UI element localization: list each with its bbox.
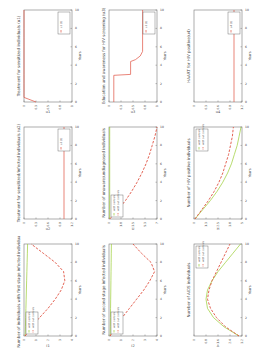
- y-tick-label: 0.3: [34, 222, 38, 227]
- chart-svg: Number of HIV positive individuals024681…: [172, 119, 254, 233]
- legend-label: with controls: [113, 311, 116, 328]
- chart-title: Treatment for sensitized/infected indivi…: [16, 123, 21, 223]
- y-tick-label: 1.2: [70, 222, 74, 227]
- x-axis-label: Years: [163, 285, 167, 294]
- y-axis-label: u1: [46, 110, 50, 114]
- chart-panel: Number of AIDS individuals0246810Years00…: [172, 236, 256, 352]
- x-tick-label: 2: [75, 199, 77, 203]
- y-axis-label: u2: [46, 227, 50, 231]
- x-axis-label: Years: [248, 168, 252, 177]
- x-tick-label: 10: [160, 125, 164, 129]
- y-tick-label: 1: [119, 339, 123, 341]
- x-tick-label: 0: [75, 334, 77, 338]
- x-tick-label: 6: [160, 45, 162, 49]
- x-tick-label: 0: [75, 217, 77, 221]
- x-axis-label: Years: [163, 51, 167, 60]
- x-tick-label: 0: [75, 100, 77, 104]
- x-tick-label: 0: [160, 217, 162, 221]
- y-tick-label: 0: [22, 339, 26, 341]
- x-tick-label: 8: [245, 26, 247, 30]
- y-tick-label: 5.3: [143, 222, 147, 227]
- y-tick-label: 0.8: [143, 105, 147, 110]
- y-tick-label: 0: [192, 105, 196, 107]
- x-tick-label: 4: [160, 180, 162, 184]
- y-tick-label: 4: [155, 339, 159, 341]
- chart-title: Treatment for sensitized individuals (u1…: [16, 15, 21, 97]
- chart-panel: Number of HIV positive individuals024681…: [172, 119, 256, 236]
- x-tick-label: 2: [75, 82, 77, 86]
- y-tick-label: 3: [58, 339, 62, 341]
- chart-title: Number of HIV positive individuals: [186, 138, 191, 207]
- y-tick-label: 2.4: [228, 339, 232, 344]
- x-tick-label: 2: [160, 82, 162, 86]
- x-tick-label: 8: [75, 260, 77, 264]
- x-tick-label: 8: [160, 143, 162, 147]
- x-tick-label: 10: [75, 125, 79, 129]
- y-tick-label: 0: [192, 339, 196, 341]
- x-tick-label: 4: [75, 180, 77, 184]
- x-tick-label: 4: [75, 63, 77, 67]
- x-tick-label: 4: [245, 63, 247, 67]
- y-tick-label: 2: [131, 339, 135, 341]
- x-tick-label: 6: [245, 279, 247, 283]
- y-tick-label: 2: [46, 339, 50, 341]
- chart-panel: Number of second stage infected individu…: [87, 236, 172, 352]
- y-axis-label: U: [132, 227, 135, 231]
- chart-title: Education and awareness for HIV screenin…: [101, 7, 106, 104]
- y-tick-label: 0.9: [228, 105, 232, 110]
- legend: u1 (t): [58, 12, 70, 34]
- chart-svg: Number of individuals with first stage i…: [2, 236, 84, 350]
- legend-label: with controls: [113, 194, 116, 211]
- x-tick-label: 10: [245, 8, 249, 12]
- chart-panel: Number of individuals with first stage i…: [2, 236, 87, 352]
- x-tick-label: 10: [160, 8, 164, 12]
- y-tick-label: 0.3: [34, 105, 38, 110]
- chart-svg: Treatment for sensitized/infected indivi…: [2, 119, 84, 233]
- figure-grid: Treatment for sensitized individuals (u1…: [0, 0, 256, 352]
- y-axis-label: u4: [216, 110, 221, 114]
- x-tick-label: 6: [75, 279, 77, 283]
- legend-label: with out controls: [202, 123, 205, 145]
- x-tick-label: 2: [160, 199, 162, 203]
- x-axis-label: Years: [163, 168, 167, 177]
- y-tick-label: 0.3: [204, 105, 208, 110]
- chart-svg: Number of AIDS individuals0246810Years00…: [172, 236, 254, 350]
- x-tick-label: 2: [245, 82, 247, 86]
- x-tick-label: 10: [75, 8, 79, 12]
- y-tick-label: 0: [192, 222, 196, 224]
- y-tick-label: 0.9: [58, 222, 62, 227]
- legend-label: u4 (t): [230, 21, 233, 28]
- x-tick-label: 4: [245, 180, 247, 184]
- legend-label: with controls: [198, 128, 201, 145]
- x-tick-label: 6: [75, 45, 77, 49]
- y-axis-label: I2: [131, 344, 134, 348]
- x-tick-label: 0: [245, 334, 247, 338]
- x-tick-label: 2: [245, 316, 247, 320]
- legend-label: with out controls: [117, 189, 120, 211]
- x-axis-label: Years: [78, 51, 82, 60]
- chart-panel: HAART for HIV positive(u4)0246810Years00…: [172, 2, 256, 119]
- chart-panel: Treatment for sensitized/infected indivi…: [2, 119, 87, 236]
- y-tick-label: 0: [22, 222, 26, 224]
- y-tick-label: 1.2: [240, 105, 244, 110]
- x-tick-label: 4: [160, 297, 162, 301]
- x-tick-label: 8: [75, 143, 77, 147]
- y-tick-label: 1.8: [119, 222, 123, 227]
- x-tick-label: 6: [160, 279, 162, 283]
- chart-svg: Number of second stage infected individu…: [87, 236, 169, 350]
- x-tick-label: 0: [160, 334, 162, 338]
- x-tick-label: 6: [75, 162, 77, 166]
- legend-label: u1 (t): [60, 21, 63, 28]
- y-tick-label: 7: [155, 222, 159, 224]
- y-tick-label: 5: [240, 222, 244, 224]
- legend: u2 (t): [58, 129, 70, 151]
- y-tick-label: 0: [107, 222, 111, 224]
- x-tick-label: 8: [245, 260, 247, 264]
- y-tick-label: 1: [70, 105, 74, 107]
- y-tick-label: 1.3: [204, 222, 208, 227]
- y-tick-label: 4: [70, 339, 74, 341]
- y-tick-label: 1: [34, 339, 38, 341]
- chart-title: HAART for HIV positive(u4): [186, 29, 191, 83]
- x-axis-label: Years: [78, 168, 82, 177]
- chart-svg: HAART for HIV positive(u4)0246810Years00…: [172, 2, 254, 116]
